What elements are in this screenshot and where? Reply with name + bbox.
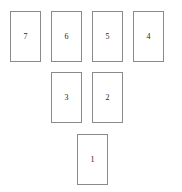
- card-label-4: 4: [147, 33, 151, 41]
- card-slot-3[interactable]: 3: [51, 72, 82, 123]
- card-slot-2[interactable]: 2: [92, 72, 123, 123]
- card-slot-7[interactable]: 7: [10, 11, 41, 62]
- card-label-3: 3: [65, 94, 69, 102]
- card-slot-5[interactable]: 5: [92, 11, 123, 62]
- card-label-7: 7: [24, 33, 28, 41]
- card-slot-1[interactable]: 1: [77, 134, 108, 185]
- card-label-1: 1: [91, 156, 95, 164]
- card-slot-6[interactable]: 6: [51, 11, 82, 62]
- card-slot-4[interactable]: 4: [133, 11, 164, 62]
- card-label-2: 2: [106, 94, 110, 102]
- card-spread-diagram: 7 6 5 4 3 2 1: [0, 0, 182, 192]
- card-label-6: 6: [65, 33, 69, 41]
- card-label-5: 5: [106, 33, 110, 41]
